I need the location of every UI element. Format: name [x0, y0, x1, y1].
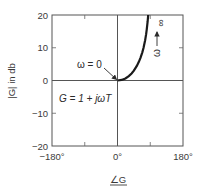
annotation-omega-zero-arrow: [104, 68, 117, 80]
x-tick-label: 0°: [113, 151, 122, 162]
y-tick-label: −20: [32, 141, 48, 152]
y-tick-labels: 20100−10−20: [32, 10, 48, 152]
y-axis-label-text: |G| in db: [6, 63, 17, 99]
x-axis-label: ∠G: [110, 174, 127, 185]
infinity-symbol: ∞: [155, 19, 166, 26]
nichols-chart: 20100−10−20 −180°0°180° |G| in db ∠G ω =…: [0, 0, 209, 189]
y-tick-label: −10: [32, 108, 48, 119]
x-tick-labels: −180°0°180°: [39, 151, 193, 162]
series-line-g: [118, 15, 149, 81]
x-tick-label: 180°: [173, 151, 193, 162]
annotation-omega-infinity: ∞ ω: [151, 19, 166, 56]
annotation-equation: G = 1 + jωT: [59, 93, 112, 104]
x-axis-label-text: ∠G: [110, 174, 126, 185]
y-tick-label: 20: [37, 10, 48, 21]
annotation-omega-zero: ω = 0: [77, 59, 102, 70]
y-axis-label: |G| in db: [6, 63, 17, 99]
x-tick-label: −180°: [39, 151, 64, 162]
y-tick-label: 10: [37, 42, 48, 53]
y-tick-label: 0: [43, 75, 48, 86]
omega-symbol: ω: [151, 49, 162, 57]
